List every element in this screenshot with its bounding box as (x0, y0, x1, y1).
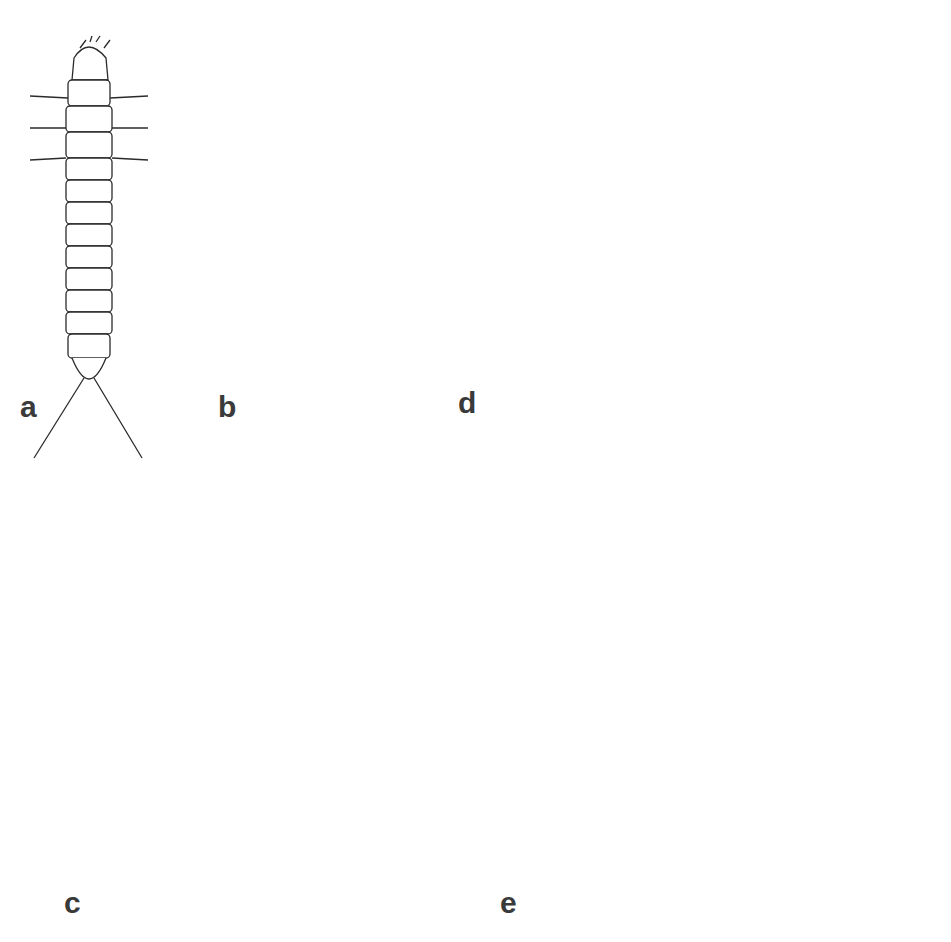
panel-label-a: a (20, 392, 37, 422)
panel-label-c: c (64, 888, 81, 918)
figure-canvas (0, 0, 951, 942)
panel-label-d: d (458, 388, 476, 418)
panel-label-b: b (218, 392, 236, 422)
larva-a-illustration (30, 36, 148, 458)
panel-label-e: e (500, 888, 517, 918)
